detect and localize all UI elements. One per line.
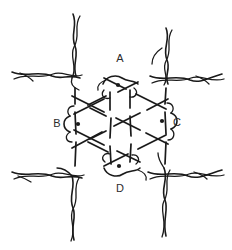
rope-strand-bottom-right bbox=[158, 153, 170, 237]
label-d: D bbox=[116, 182, 124, 194]
node-dot-d bbox=[117, 164, 121, 168]
node-dot-b bbox=[76, 122, 80, 126]
woven-lattice-figure: A B C D bbox=[0, 0, 232, 250]
knot-loop-node-b bbox=[64, 106, 74, 142]
rope-strand-top-right bbox=[152, 28, 172, 85]
rope-strand-top-left bbox=[71, 14, 80, 90]
knot-loop-node-d bbox=[103, 154, 146, 180]
lattice-diagonals-up-right bbox=[72, 82, 168, 166]
label-b: B bbox=[53, 117, 61, 129]
rope-strand-right-lower bbox=[148, 170, 224, 179]
node-dot-c bbox=[160, 119, 164, 123]
rope-strand-right-upper bbox=[150, 74, 224, 84]
knot-loop-node-a bbox=[98, 76, 138, 98]
rope-strand-bottom-left bbox=[57, 168, 79, 241]
node-markers bbox=[76, 83, 164, 168]
diagram-canvas: A B C D bbox=[0, 0, 232, 250]
label-c: C bbox=[173, 116, 181, 128]
label-a: A bbox=[116, 52, 124, 64]
node-dot-a bbox=[116, 83, 120, 87]
lattice-verticals bbox=[75, 88, 166, 166]
